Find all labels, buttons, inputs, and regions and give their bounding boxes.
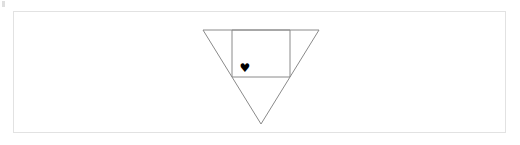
heart-icon: ♥ [239,61,251,75]
geometric-figure [0,0,520,145]
canvas-root: ♥ [0,0,520,145]
